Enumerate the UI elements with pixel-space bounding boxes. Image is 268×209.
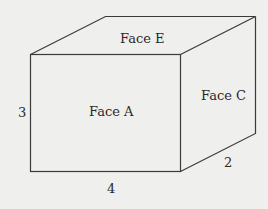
face-e-label: Face E xyxy=(120,32,164,45)
face-a-label: Face A xyxy=(89,105,133,118)
height-label: 3 xyxy=(18,106,26,119)
width-label: 4 xyxy=(107,182,115,195)
depth-label: 2 xyxy=(224,156,232,169)
prism-diagram: Face E Face A Face C 3 4 2 xyxy=(0,0,268,209)
face-c-label: Face C xyxy=(201,89,246,102)
